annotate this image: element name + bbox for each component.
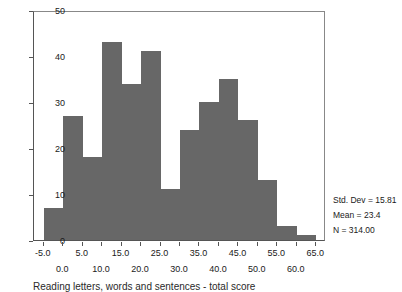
x-tick-mark	[82, 242, 83, 246]
y-tick-mark	[29, 103, 33, 104]
histogram-figure: 01020304050 -5.05.015.025.035.045.055.06…	[0, 0, 402, 292]
x-tick-label: 45.0	[229, 249, 247, 258]
y-tick-label: 30	[55, 99, 65, 108]
x-tick-mark	[315, 242, 316, 246]
bar-series	[34, 12, 324, 240]
x-tick-label: 55.0	[268, 249, 286, 258]
histogram-bar	[161, 189, 180, 240]
x-tick-mark	[101, 242, 102, 246]
y-tick-mark	[29, 57, 33, 58]
x-tick-label: 65.0	[307, 249, 325, 258]
x-tick-mark	[140, 242, 141, 246]
x-tick-mark	[121, 242, 122, 246]
y-tick-mark	[29, 11, 33, 12]
x-tick-label: 20.0	[131, 265, 149, 274]
x-tick-label: 50.0	[248, 265, 266, 274]
y-tick-label: 40	[55, 53, 65, 62]
histogram-bar	[141, 51, 160, 240]
x-tick-mark	[160, 242, 161, 246]
plot-area	[33, 11, 325, 241]
x-tick-mark	[257, 242, 258, 246]
x-tick-label: 15.0	[112, 249, 130, 258]
histogram-bar	[102, 42, 121, 240]
x-tick-mark	[237, 242, 238, 246]
histogram-bar	[63, 116, 82, 240]
histogram-bar	[297, 235, 316, 240]
mean-label: Mean = 23.4	[333, 208, 397, 223]
x-tick-mark	[198, 242, 199, 246]
chart-caption: Reading letters, words and sentences - t…	[33, 281, 255, 292]
x-tick-label: 35.0	[190, 249, 208, 258]
y-tick-label: 50	[55, 7, 65, 16]
x-tick-label: -5.0	[35, 249, 51, 258]
x-tick-label: 40.0	[209, 265, 227, 274]
histogram-bar	[83, 157, 102, 240]
histogram-bar	[199, 102, 218, 240]
x-tick-mark	[62, 242, 63, 246]
histogram-bar	[219, 79, 238, 240]
histogram-bar	[122, 84, 141, 240]
statistics-annotation: Std. Dev = 15.81 Mean = 23.4 N = 314.00	[333, 193, 397, 238]
x-tick-label: 30.0	[170, 265, 188, 274]
histogram-bar	[180, 130, 199, 240]
x-tick-label: 5.0	[75, 249, 88, 258]
histogram-bar	[258, 180, 277, 240]
x-tick-label: 10.0	[92, 265, 110, 274]
y-tick-label: 10	[55, 191, 65, 200]
x-tick-mark	[179, 242, 180, 246]
x-tick-label: 0.0	[56, 265, 69, 274]
y-tick-label: 20	[55, 145, 65, 154]
std-dev-label: Std. Dev = 15.81	[333, 193, 397, 208]
y-tick-mark	[29, 149, 33, 150]
x-tick-mark	[276, 242, 277, 246]
histogram-bar	[238, 120, 257, 240]
n-label: N = 314.00	[333, 223, 397, 238]
x-tick-mark	[43, 242, 44, 246]
histogram-bar	[277, 226, 296, 240]
x-tick-mark	[296, 242, 297, 246]
x-tick-mark	[218, 242, 219, 246]
y-tick-mark	[29, 241, 33, 242]
y-tick-mark	[29, 195, 33, 196]
x-tick-label: 25.0	[151, 249, 169, 258]
x-tick-label: 60.0	[287, 265, 305, 274]
